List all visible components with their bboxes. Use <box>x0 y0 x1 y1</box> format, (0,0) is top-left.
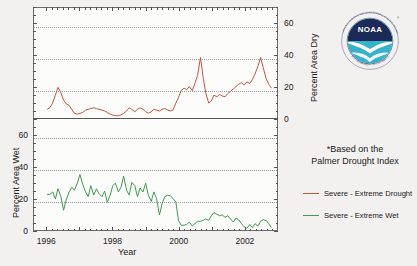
tick-x-top <box>90 7 91 10</box>
tick-x-bottom <box>261 229 262 232</box>
panel-percent-area-dry <box>33 7 278 119</box>
tick-x-top <box>151 7 152 10</box>
tick-y-dry <box>276 79 279 80</box>
tick-x-bottom <box>140 229 141 232</box>
tick-x-top <box>212 7 213 11</box>
tick-y-wet-right <box>276 127 279 128</box>
tick-y-wet <box>33 167 37 168</box>
tick-y-dry <box>276 71 279 72</box>
tick-x-bottom <box>118 229 119 232</box>
tick-x-top <box>256 7 257 10</box>
tick-y-dry-left <box>33 111 36 112</box>
tick-x-top <box>57 7 58 10</box>
y-tick-wet-0: 0 <box>2 226 28 236</box>
registered-trademark-icon: ® <box>397 16 399 20</box>
tick-y-wet-right <box>276 207 279 208</box>
tick-x-bottom <box>68 229 69 232</box>
tick-x-bottom <box>146 227 147 231</box>
tick-x-bottom <box>184 229 185 232</box>
tick-y-dry <box>276 31 279 32</box>
tick-y-dry <box>276 103 279 104</box>
tick-x-top <box>140 7 141 10</box>
tick-y-wet <box>33 207 36 208</box>
tick-x-top <box>206 7 207 10</box>
tick-y-dry <box>276 39 279 40</box>
tick-x-top <box>123 7 124 10</box>
tick-x-top <box>46 7 47 11</box>
tick-x-top <box>157 7 158 10</box>
legend-item-severe-extreme-drought: Severe - Extreme Drought <box>303 189 412 198</box>
tick-y-wet <box>33 199 37 200</box>
tick-x-bottom <box>129 229 130 232</box>
tick-x-top <box>195 7 196 10</box>
tick-x-bottom <box>168 229 169 232</box>
tick-y-wet-right <box>274 167 278 168</box>
noaa-wordmark: NOAA <box>358 25 383 34</box>
tick-y-wet <box>33 151 36 152</box>
tick-x-top <box>96 7 97 10</box>
tick-x-top <box>223 7 224 10</box>
noaa-logo: NOAA NATIONAL OCEANIC AND ATMOSPHERIC AD… <box>337 8 403 74</box>
tick-x-bottom <box>151 229 152 232</box>
palmer-index-note: *Based on the Palmer Drought Index <box>296 144 414 167</box>
tick-x-bottom <box>245 227 246 231</box>
tick-x-bottom <box>195 229 196 232</box>
tick-y-wet-right <box>274 231 278 232</box>
tick-y-wet <box>33 215 36 216</box>
tick-y-dry-left <box>33 71 36 72</box>
tick-x-top <box>107 7 108 10</box>
tick-x-bottom <box>190 229 191 232</box>
tick-x-top <box>112 7 113 11</box>
tick-x-top <box>239 7 240 10</box>
tick-y-dry-left <box>33 87 37 88</box>
tick-x-top <box>201 7 202 10</box>
tick-x-bottom <box>162 229 163 232</box>
tick-y-wet-right <box>276 151 279 152</box>
tick-y-dry <box>274 87 278 88</box>
tick-y-wet <box>33 183 36 184</box>
tick-y-wet <box>33 127 36 128</box>
tick-y-dry-left <box>33 63 36 64</box>
tick-x-bottom <box>267 229 268 232</box>
tick-x-top <box>250 7 251 10</box>
tick-y-dry-left <box>33 55 37 56</box>
tick-y-dry <box>276 7 279 8</box>
tick-y-dry-left <box>33 23 37 24</box>
tick-x-top <box>129 7 130 10</box>
tick-x-bottom <box>206 229 207 232</box>
tick-x-top <box>173 7 174 10</box>
tick-y-dry <box>276 111 279 112</box>
legend-item-severe-extreme-wet: Severe - Extreme Wet <box>303 211 399 220</box>
tick-x-top <box>267 7 268 10</box>
tick-x-top <box>245 7 246 11</box>
y-tick-dry-40: 40 <box>284 50 310 60</box>
tick-x-bottom <box>228 229 229 232</box>
tick-x-top <box>74 7 75 10</box>
tick-y-wet-right <box>276 159 279 160</box>
tick-x-top <box>168 7 169 10</box>
tick-y-dry-left <box>33 39 36 40</box>
tick-x-bottom <box>112 227 113 231</box>
tick-x-top <box>228 7 229 10</box>
tick-y-dry-left <box>33 15 36 16</box>
tick-x-bottom <box>74 229 75 232</box>
tick-x-bottom <box>250 229 251 232</box>
tick-y-dry <box>274 55 278 56</box>
tick-x-bottom <box>135 229 136 232</box>
tick-y-wet <box>33 223 36 224</box>
tick-x-top <box>68 7 69 10</box>
tick-y-wet-right <box>276 119 279 120</box>
tick-y-wet-right <box>274 199 278 200</box>
tick-y-dry-left <box>33 7 36 8</box>
tick-x-bottom <box>217 229 218 232</box>
chart-plot-area <box>33 7 278 231</box>
series-severe-extreme-wet <box>34 119 277 230</box>
legend-swatch-drought <box>303 193 319 194</box>
tick-y-dry-left <box>33 95 36 96</box>
tick-y-wet <box>33 119 36 120</box>
tick-y-dry-left <box>33 79 36 80</box>
tick-x-bottom <box>212 227 213 231</box>
tick-x-top <box>146 7 147 11</box>
chart-page: 02040600204060 1996199820002002 Year Per… <box>0 0 417 266</box>
tick-y-dry <box>276 63 279 64</box>
